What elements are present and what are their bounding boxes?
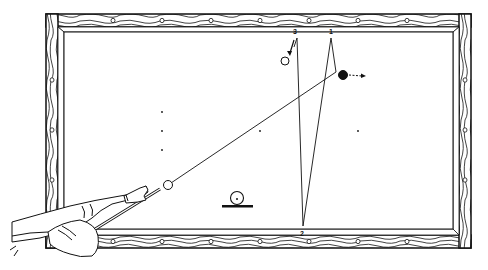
rail-diamond-icon xyxy=(50,78,54,82)
rail-diamond-icon xyxy=(463,178,467,182)
billiard-table-diagram: 3 1 2 xyxy=(0,0,488,270)
table-spot xyxy=(161,111,163,113)
rail-label-3: 3 xyxy=(293,28,297,35)
table-spot xyxy=(357,130,359,132)
cushion-bevel xyxy=(58,27,459,32)
cushion-bevel-left xyxy=(58,27,64,235)
table-rails xyxy=(46,14,471,248)
cushion-bevel-right xyxy=(453,27,459,235)
rail-diamond-icon xyxy=(258,18,262,22)
rail-diamond-icon xyxy=(258,239,262,243)
table-spot xyxy=(259,130,261,132)
table-spot xyxy=(161,130,163,132)
rail-diamond-icon xyxy=(160,18,164,22)
rail-diamond-icon xyxy=(209,239,213,243)
rail-diamond-icon xyxy=(356,239,360,243)
diagram-canvas: 3 1 2 xyxy=(0,0,488,270)
rail-diamond-icon xyxy=(307,18,311,22)
rail-diamond-icon xyxy=(356,18,360,22)
rail-label-2: 2 xyxy=(300,230,304,237)
rail-diamond-icon xyxy=(405,239,409,243)
rail-diamond-icon xyxy=(50,128,54,132)
black-object-ball xyxy=(339,71,348,80)
rail-diamond-icon xyxy=(50,178,54,182)
rail-diamond-icon xyxy=(463,128,467,132)
rail-diamond-icon xyxy=(209,18,213,22)
cushion-bevel-bottom xyxy=(58,229,459,235)
cue-ball xyxy=(164,181,173,190)
rail-diamond-icon xyxy=(307,239,311,243)
table-spot xyxy=(161,149,163,151)
rail-diamond-icon xyxy=(405,18,409,22)
rail-label-1: 1 xyxy=(329,28,333,35)
rail-diamond-icon xyxy=(160,239,164,243)
white-object-ball xyxy=(281,57,289,65)
rail-diamond-icon xyxy=(111,18,115,22)
rail-diamond-icon xyxy=(111,239,115,243)
rail-diamond-icon xyxy=(463,78,467,82)
